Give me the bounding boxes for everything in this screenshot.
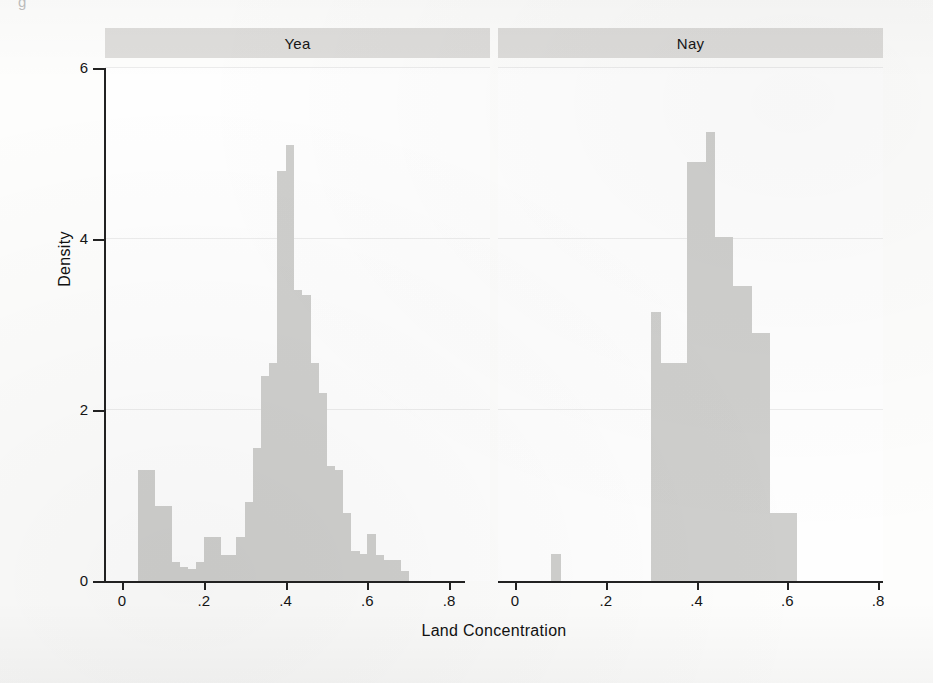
y-axis-line: [104, 68, 106, 583]
y-tick-mark-0: [93, 581, 104, 583]
x-tick-mark: [697, 581, 699, 590]
x-tick-label: .4: [271, 592, 301, 609]
x-tick-label: .6: [352, 592, 382, 609]
panel-header-yea-label: Yea: [285, 35, 311, 52]
x-tick-mark: [449, 581, 451, 590]
panel-header-nay-label: Nay: [677, 35, 704, 52]
histogram-bar: [400, 571, 409, 581]
histogram-nay: [498, 68, 883, 581]
y-tick-label-6: 6: [62, 59, 88, 76]
y-tick-label-0: 0: [62, 572, 88, 589]
gridline-y-6: [105, 67, 490, 68]
panel-header-yea: Yea: [105, 28, 490, 58]
x-tick-label: 0: [107, 592, 137, 609]
histogram-yea: [105, 68, 490, 581]
gridline-y-6: [498, 67, 883, 68]
x-axis-line-nay: [498, 581, 883, 583]
x-tick-mark: [122, 581, 124, 590]
x-tick-mark: [286, 581, 288, 590]
histogram-bar: [551, 554, 561, 581]
x-tick-label: .2: [189, 592, 219, 609]
y-tick-mark-6: [93, 68, 104, 70]
x-tick-label: .2: [591, 592, 621, 609]
stray-scan-mark: g: [18, 0, 26, 10]
x-tick-mark: [204, 581, 206, 590]
x-tick-label: .8: [863, 592, 893, 609]
x-tick-mark: [878, 581, 880, 590]
y-tick-label-2: 2: [62, 401, 88, 418]
x-tick-mark: [515, 581, 517, 590]
panel-header-nay: Nay: [498, 28, 883, 58]
x-axis-title: Land Concentration: [105, 622, 883, 640]
x-tick-label: .4: [682, 592, 712, 609]
y-tick-mark-2: [93, 410, 104, 412]
y-axis-title: Density: [56, 189, 74, 329]
plot-panel-yea: [105, 68, 490, 581]
histogram-bar: [787, 513, 797, 581]
x-tick-label: 0: [500, 592, 530, 609]
y-tick-mark-4: [93, 239, 104, 241]
x-tick-mark: [787, 581, 789, 590]
gridline-y-4: [105, 238, 490, 239]
x-tick-mark: [367, 581, 369, 590]
figure-canvas: g Yea Nay 0246 0.2.4.6.80.2.4.6.8 Densit…: [0, 0, 933, 683]
plot-panel-nay: [498, 68, 883, 581]
x-tick-mark: [606, 581, 608, 590]
x-tick-label: .6: [772, 592, 802, 609]
x-tick-label: .8: [434, 592, 464, 609]
